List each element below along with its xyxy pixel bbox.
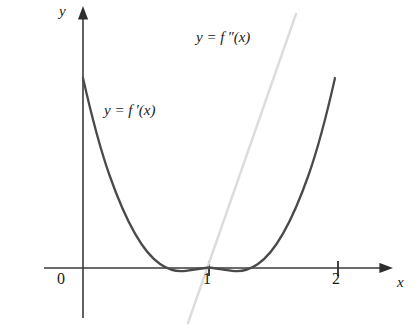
first-derivative-label: y = f ′(x) <box>104 103 155 118</box>
x-axis-label: x <box>397 275 404 290</box>
x-tick-label-1: 1 <box>203 271 211 287</box>
x-tick-label-2: 2 <box>332 271 340 287</box>
second-derivative-label: y = f ″(x) <box>196 30 250 45</box>
y-axis-label: y <box>59 4 66 19</box>
origin-tick-label: 0 <box>57 271 65 287</box>
figure-canvas: y x 0 1 2 y = f ′(x) y = f ″(x) <box>0 0 420 330</box>
